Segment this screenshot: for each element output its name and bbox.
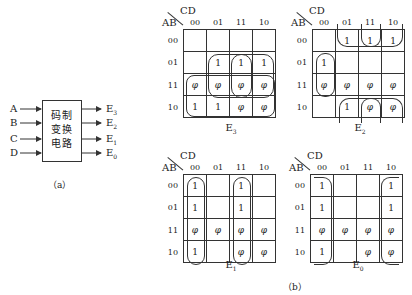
kmap-grid: 111 1 φφφφ 1φφ — [312, 29, 405, 118]
block-line-3: 电路 — [43, 137, 81, 151]
cell: φ — [184, 219, 207, 241]
cell: 1 — [184, 197, 207, 219]
cell: φ — [230, 74, 253, 96]
kmap-e0: CD AB 00 01 11 10 00 01 11 10 11 11 φφφφ… — [277, 149, 412, 279]
row-variable-label: AB — [289, 162, 304, 173]
cell — [207, 30, 230, 52]
cell: φ — [359, 96, 382, 118]
col-label: 11 — [230, 18, 252, 27]
kmap-grid: 111 φφφφ 11φφ — [183, 29, 276, 118]
cell: 1 — [382, 30, 405, 52]
block-line-1: 码制 — [43, 109, 81, 123]
row-label: 00 — [162, 181, 178, 190]
cell: φ — [357, 219, 380, 241]
cell: 1 — [230, 52, 253, 74]
code-conversion-block: 码制 变换 电路 — [42, 100, 82, 162]
cell: φ — [207, 219, 230, 241]
map-title: E2 — [340, 122, 380, 135]
cell: φ — [313, 74, 336, 96]
input-label-d: D — [10, 147, 18, 158]
cell: φ — [336, 74, 359, 96]
output-label-e0: E0 — [106, 147, 117, 160]
row-variable-label: AB — [162, 162, 177, 173]
col-label: 11 — [359, 18, 381, 27]
output-label-e2: E2 — [106, 117, 117, 130]
col-label: 00 — [184, 163, 206, 172]
row-label: 01 — [162, 58, 178, 67]
col-label: 01 — [207, 18, 229, 27]
col-variable-label: CD — [307, 150, 323, 161]
cell: 1 — [313, 52, 336, 74]
block-line-2: 变换 — [43, 123, 81, 137]
map-title-sub: 2 — [362, 128, 366, 135]
cell — [253, 197, 276, 219]
col-label: 01 — [334, 163, 356, 172]
row-label: 00 — [289, 181, 305, 190]
input-label-a: A — [10, 103, 17, 114]
kmap-e3: CD AB 00 01 11 10 00 01 11 10 111 φφφφ 1… — [150, 4, 280, 134]
cell: 1 — [184, 175, 207, 197]
row-variable-label: AB — [291, 17, 306, 28]
caption-a: （a） — [48, 178, 71, 191]
row-label: 10 — [162, 103, 178, 112]
map-title: E3 — [211, 122, 251, 135]
map-title-base: E — [225, 259, 232, 270]
cell — [253, 30, 276, 52]
row-label: 00 — [162, 36, 178, 45]
cell: φ — [207, 74, 230, 96]
cell: 1 — [184, 96, 207, 118]
cell — [207, 175, 230, 197]
kmap-e1: CD AB 00 01 11 10 00 01 11 10 11 11 φφφφ… — [150, 149, 280, 279]
col-label: 01 — [207, 163, 229, 172]
kmap-e2: CD AB 00 01 11 10 00 01 11 10 111 1 φφφφ… — [279, 4, 412, 134]
cell — [184, 30, 207, 52]
col-label: 10 — [253, 18, 275, 27]
output-label-sub: 3 — [113, 109, 117, 116]
cell — [230, 30, 253, 52]
cell: 1 — [230, 175, 253, 197]
cell: 1 — [311, 197, 334, 219]
row-label: 11 — [289, 226, 305, 235]
row-label: 01 — [162, 203, 178, 212]
cell: 1 — [380, 175, 403, 197]
col-label: 00 — [313, 18, 335, 27]
map-title: E1 — [211, 259, 251, 272]
row-label: 10 — [289, 248, 305, 257]
cell — [207, 197, 230, 219]
output-label-e1: E1 — [106, 133, 117, 146]
row-label: 10 — [291, 103, 307, 112]
cell — [357, 175, 380, 197]
cell: 1 — [380, 197, 403, 219]
map-title-base: E — [354, 122, 361, 133]
cell — [336, 52, 359, 74]
cell: φ — [359, 74, 382, 96]
output-label-e3: E3 — [106, 103, 117, 116]
cell — [334, 175, 357, 197]
cell: φ — [380, 219, 403, 241]
cell: φ — [382, 96, 405, 118]
input-label-b: B — [10, 117, 17, 128]
col-label: 00 — [184, 18, 206, 27]
row-label: 00 — [291, 36, 307, 45]
block-title: 码制 变换 电路 — [43, 109, 81, 151]
row-label: 11 — [291, 81, 307, 90]
row-label: 11 — [162, 226, 178, 235]
kmap-grid: 11 11 φφφφ 1φφ — [183, 174, 276, 263]
col-label: 10 — [253, 163, 275, 172]
cell — [253, 175, 276, 197]
cell: φ — [253, 219, 276, 241]
col-label: 00 — [311, 163, 333, 172]
col-variable-label: CD — [309, 5, 325, 16]
col-label: 01 — [336, 18, 358, 27]
cell: φ — [230, 219, 253, 241]
map-title: E0 — [338, 259, 378, 272]
row-label: 01 — [291, 58, 307, 67]
row-label: 10 — [162, 248, 178, 257]
map-title-sub: 0 — [360, 265, 364, 272]
cell — [357, 197, 380, 219]
map-title-base: E — [352, 259, 359, 270]
cell: φ — [334, 219, 357, 241]
cell: 1 — [184, 241, 207, 263]
caption-b: （b） — [283, 280, 307, 293]
cell: 1 — [253, 52, 276, 74]
